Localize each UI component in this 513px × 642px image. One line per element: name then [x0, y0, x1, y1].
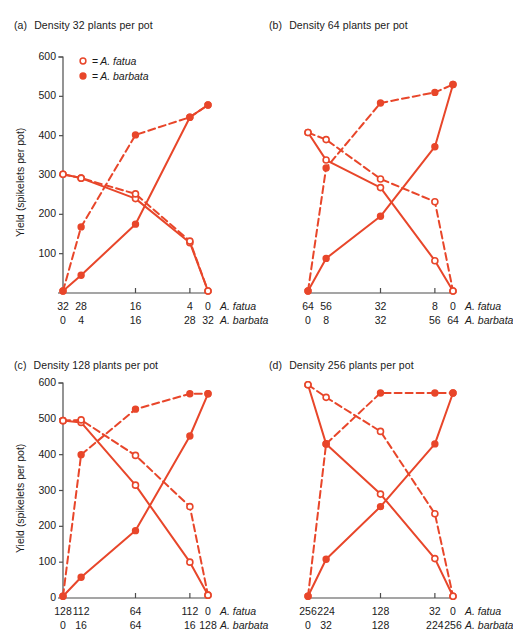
- data-point-barbata: [432, 90, 438, 96]
- data-point-barbata: [78, 272, 84, 278]
- data-point-barbata: [133, 132, 139, 138]
- data-point-fatua: [378, 185, 384, 191]
- x-tick-fatua: 128: [351, 605, 411, 617]
- data-point-fatua: [378, 491, 384, 497]
- data-point-fatua: [378, 176, 384, 182]
- x-tick-barbata: 16: [106, 314, 166, 326]
- data-point-fatua: [432, 511, 438, 517]
- data-point-barbata: [205, 102, 211, 108]
- data-point-barbata: [60, 288, 66, 294]
- legend-equals: =: [92, 55, 98, 67]
- data-point-fatua: [323, 157, 329, 163]
- plot-area: [0, 340, 246, 642]
- data-point-fatua: [133, 482, 139, 488]
- data-point-fatua: [187, 504, 193, 510]
- data-point-fatua: [133, 452, 139, 458]
- data-point-fatua: [450, 593, 456, 599]
- data-point-fatua: [323, 137, 329, 143]
- chart-panel-c: (c)Density 128 plants per potYield (spik…: [0, 340, 246, 642]
- data-point-barbata: [305, 593, 311, 599]
- data-point-barbata: [450, 82, 456, 88]
- x-tick-fatua: 56: [296, 300, 356, 312]
- series-line-0: [308, 133, 453, 292]
- axis-row-label-fatua: A. fatua: [465, 300, 501, 312]
- series-line-2: [63, 394, 208, 596]
- data-point-fatua: [133, 191, 139, 197]
- legend-item-fatua: =A. fatua: [77, 53, 149, 68]
- chart-panel-b: (b)Density 64 plants per pot645632800832…: [245, 0, 491, 340]
- legend-item-barbata: =A. barbata: [77, 68, 149, 83]
- chart-panel-d: (d)Density 256 plants per pot25622412832…: [245, 340, 491, 642]
- series-line-0: [63, 421, 208, 595]
- data-point-fatua: [432, 556, 438, 562]
- data-point-barbata: [78, 574, 84, 580]
- x-tick-barbata: 128: [351, 619, 411, 631]
- data-point-barbata: [432, 441, 438, 447]
- filled-circle-icon: [77, 71, 89, 81]
- series-line-1: [308, 133, 453, 292]
- open-circle-icon: [77, 56, 89, 66]
- data-point-barbata: [187, 391, 193, 397]
- axis-row-label-barbata: A. barbata: [465, 314, 513, 326]
- x-tick-fatua: 64: [106, 605, 166, 617]
- data-point-barbata: [187, 433, 193, 439]
- data-point-fatua: [432, 258, 438, 264]
- chart-panel-a: (a)Density 32 plants per potYield (spike…: [0, 0, 246, 340]
- legend-label-barbata: A. barbata: [100, 70, 148, 82]
- axis-row-label-fatua: A. fatua: [465, 605, 501, 617]
- data-point-barbata: [133, 406, 139, 412]
- axis-row-label-barbata: A. barbata: [465, 619, 513, 631]
- legend-label-fatua: A. fatua: [100, 55, 136, 67]
- data-point-barbata: [378, 390, 384, 396]
- data-point-barbata: [378, 100, 384, 106]
- data-point-fatua: [205, 288, 211, 294]
- x-tick-barbata: 4: [51, 314, 111, 326]
- data-point-fatua: [60, 418, 66, 424]
- data-point-fatua: [187, 238, 193, 244]
- legend-equals: =: [92, 70, 98, 82]
- data-point-barbata: [323, 165, 329, 171]
- data-point-barbata: [323, 441, 329, 447]
- data-point-barbata: [432, 144, 438, 150]
- data-point-fatua: [60, 171, 66, 177]
- data-point-barbata: [432, 390, 438, 396]
- data-point-barbata: [378, 213, 384, 219]
- data-point-barbata: [205, 391, 211, 397]
- series-line-3: [63, 394, 208, 596]
- data-point-barbata: [305, 288, 311, 294]
- data-point-barbata: [450, 390, 456, 396]
- data-point-barbata: [78, 452, 84, 458]
- data-point-barbata: [133, 528, 139, 534]
- x-tick-fatua: 112: [51, 605, 111, 617]
- plot-area: [245, 340, 491, 642]
- x-tick-barbata: 32: [351, 314, 411, 326]
- data-point-fatua: [305, 130, 311, 136]
- x-tick-fatua: 28: [51, 300, 111, 312]
- data-point-barbata: [60, 593, 66, 599]
- data-point-barbata: [378, 504, 384, 510]
- data-point-fatua: [432, 199, 438, 205]
- data-point-barbata: [78, 224, 84, 230]
- x-tick-fatua: 224: [296, 605, 356, 617]
- data-point-fatua: [78, 417, 84, 423]
- plot-area: [0, 0, 246, 340]
- x-tick-barbata: 8: [296, 314, 356, 326]
- x-tick-barbata: 32: [296, 619, 356, 631]
- data-point-fatua: [378, 428, 384, 434]
- x-tick-fatua: 16: [106, 300, 166, 312]
- x-tick-fatua: 32: [351, 300, 411, 312]
- data-point-fatua: [187, 559, 193, 565]
- legend: =A. fatua=A. barbata: [77, 53, 149, 83]
- data-point-fatua: [205, 592, 211, 598]
- data-point-barbata: [187, 114, 193, 120]
- data-point-fatua: [450, 288, 456, 294]
- data-point-fatua: [305, 382, 311, 388]
- plot-area: [245, 0, 491, 340]
- data-point-fatua: [323, 394, 329, 400]
- x-tick-barbata: 16: [51, 619, 111, 631]
- data-point-fatua: [78, 175, 84, 181]
- data-point-barbata: [323, 556, 329, 562]
- data-point-barbata: [133, 221, 139, 227]
- data-point-barbata: [323, 255, 329, 261]
